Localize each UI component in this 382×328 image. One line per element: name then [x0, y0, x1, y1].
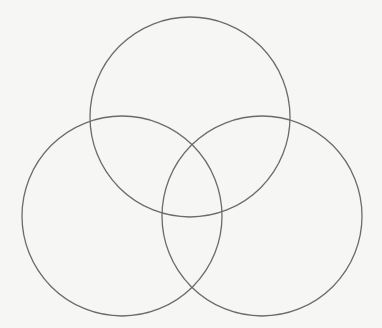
- venn-circle-bottom-left: [22, 116, 222, 316]
- venn-circle-top: [90, 17, 290, 217]
- venn-diagram-canvas: [0, 0, 382, 328]
- venn-diagram: [0, 0, 382, 328]
- venn-circle-bottom-right: [162, 116, 362, 316]
